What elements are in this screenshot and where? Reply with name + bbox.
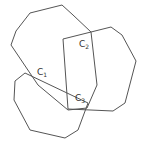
label-c3: C3 xyxy=(75,93,85,104)
right-polygon xyxy=(63,27,136,111)
label-c2: C2 xyxy=(79,39,89,50)
top-polygon xyxy=(11,5,97,110)
label-c1: C1 xyxy=(37,67,47,78)
diagram-canvas: C2 C1 C3 xyxy=(0,0,141,155)
bottom-left-polygon xyxy=(14,73,88,138)
